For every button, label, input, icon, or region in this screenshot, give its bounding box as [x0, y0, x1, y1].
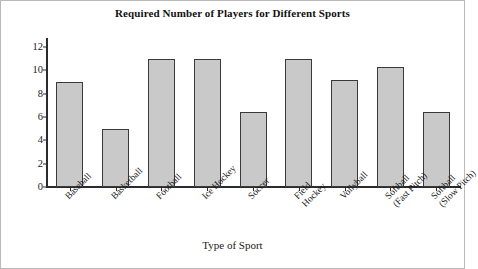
bar: [56, 82, 83, 187]
bar: [285, 59, 312, 187]
y-tick-mark: [43, 187, 47, 188]
plot-area: 024681012 BaseballBasketballFootballIce …: [47, 39, 459, 187]
y-tick-mark: [43, 47, 47, 48]
x-axis-label: Type of Sport: [1, 239, 464, 251]
y-tick-mark: [43, 93, 47, 94]
y-tick-label: 12: [33, 42, 44, 53]
bar: [331, 80, 358, 187]
y-tick-mark: [43, 163, 47, 164]
y-tick-mark: [43, 117, 47, 118]
y-tick-mark: [43, 70, 47, 71]
bar: [148, 59, 175, 187]
y-tick-mark: [43, 140, 47, 141]
y-tick-label: 10: [33, 65, 44, 76]
bar: [377, 67, 404, 187]
chart-title: Required Number of Players for Different…: [1, 7, 464, 19]
bar: [194, 59, 221, 187]
